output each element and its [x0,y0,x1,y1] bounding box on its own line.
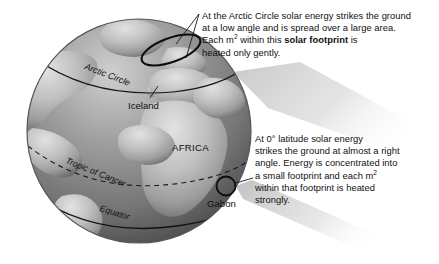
callout-equator: At 0° latitude solar energy strikes the … [255,133,400,206]
label-africa: AFRICA [172,142,209,153]
callout-equator-line-2: strikes the ground at almost a right [255,145,400,157]
square-metre-exponent: 2 [373,168,377,175]
callout-arctic-circle: At the Arctic Circle solar energy strike… [202,10,411,59]
figure-canvas: At the Arctic Circle solar energy strike… [0,0,439,264]
solar-footprint-emphasis: solar footprint [284,34,348,45]
label-gabon: Gabon [207,198,236,209]
callout-arctic-line-1: At the Arctic Circle solar energy strike… [202,10,411,22]
callout-equator-line-6: strongly. [255,194,400,206]
callout-arctic-line-3: Each m2 within this solar footprint is [202,34,411,46]
callout-equator-line-4: a small footprint and each m2 [255,170,400,182]
callout-arctic-line-3a: Each m [202,34,234,45]
callout-arctic-line-3c: is [348,34,357,45]
callout-arctic-line-3b: within this [238,34,285,45]
label-iceland: Iceland [128,100,159,111]
callout-equator-line-5: within that footprint is heated [255,182,400,194]
callout-equator-line-4a: a small footprint and each m [255,170,373,181]
callout-equator-line-1: At 0° latitude solar energy [255,133,400,145]
callout-arctic-line-4: heated only gently. [202,47,411,59]
callout-equator-line-3: angle. Energy is concentrated into [255,157,400,169]
